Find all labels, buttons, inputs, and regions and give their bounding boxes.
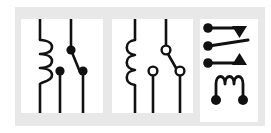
relay-panel-horizontal xyxy=(200,19,258,122)
relay-symbols-figure xyxy=(0,0,271,133)
relay-panel-filled xyxy=(21,19,103,113)
relay-panel-hollow xyxy=(112,19,193,113)
